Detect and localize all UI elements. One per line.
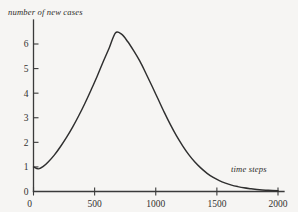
x-tick-label: 500 (88, 199, 103, 209)
figure-canvas: number of new cases 0500100015002000 012… (0, 0, 298, 212)
x-tick-label: 0 (27, 199, 32, 209)
x-tick-label: 1500 (207, 199, 226, 209)
y-tick-label: 6 (24, 39, 29, 49)
y-axis-ticks: 0123456 (24, 39, 39, 197)
y-tick-label: 2 (24, 138, 29, 148)
y-tick-label: 1 (24, 162, 29, 172)
y-axis-title: number of new cases (8, 7, 83, 17)
line-chart: number of new cases 0500100015002000 012… (0, 0, 298, 212)
y-tick-label: 3 (24, 113, 29, 123)
y-tick-label: 0 (24, 187, 29, 197)
x-axis-ticks: 0500100015002000 (27, 187, 288, 209)
x-tick-label: 2000 (269, 199, 288, 209)
y-tick-label: 5 (24, 64, 29, 74)
x-axis-title: time steps (231, 164, 267, 174)
x-tick-label: 1000 (146, 199, 165, 209)
y-tick-label: 4 (24, 89, 29, 99)
